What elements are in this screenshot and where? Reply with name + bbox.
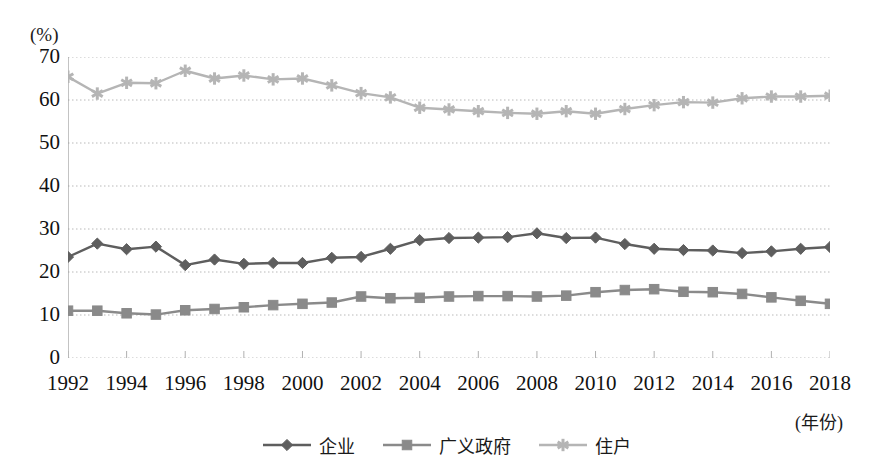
data-point-marker bbox=[825, 299, 830, 309]
data-point-marker bbox=[824, 241, 830, 252]
data-point-marker bbox=[620, 285, 630, 295]
data-point-marker bbox=[473, 232, 484, 243]
data-point-marker bbox=[326, 252, 337, 263]
data-point-marker bbox=[502, 232, 513, 243]
data-series bbox=[68, 65, 830, 120]
data-point-marker bbox=[150, 241, 161, 252]
data-point-marker bbox=[619, 238, 630, 249]
y-axis-tick-label: 10 bbox=[20, 304, 60, 325]
data-point-marker bbox=[92, 238, 103, 249]
legend-item[interactable]: 企业 bbox=[261, 432, 355, 458]
data-point-marker bbox=[298, 299, 308, 309]
data-point-marker bbox=[649, 243, 660, 254]
data-point-marker bbox=[68, 251, 74, 262]
y-axis-tick-label: 20 bbox=[20, 261, 60, 282]
data-point-marker bbox=[209, 254, 220, 265]
data-point-marker bbox=[281, 439, 292, 450]
data-series bbox=[68, 228, 830, 271]
data-series bbox=[68, 284, 830, 319]
data-point-marker bbox=[679, 287, 689, 297]
data-point-marker bbox=[737, 289, 747, 299]
data-point-marker bbox=[68, 71, 73, 83]
legend-swatch-asterisk-icon bbox=[537, 437, 589, 453]
chart-legend: 企业广义政府住户 bbox=[0, 432, 891, 458]
x-axis-tick-labels: 1992199419961998200020022004200620082010… bbox=[0, 372, 891, 406]
data-point-marker bbox=[268, 257, 279, 268]
data-point-marker bbox=[678, 244, 689, 255]
data-point-marker bbox=[238, 258, 249, 269]
data-point-marker bbox=[210, 304, 220, 314]
data-point-marker bbox=[92, 87, 103, 99]
legend-item[interactable]: 广义政府 bbox=[381, 432, 511, 458]
data-point-marker bbox=[561, 232, 572, 243]
data-point-marker bbox=[591, 287, 601, 297]
y-axis-tick-label: 70 bbox=[20, 46, 60, 67]
legend-swatch-square-icon bbox=[381, 437, 433, 453]
x-axis-title: (年份) bbox=[795, 408, 843, 434]
data-point-marker bbox=[151, 310, 161, 320]
data-point-marker bbox=[443, 232, 454, 243]
data-point-marker bbox=[736, 247, 747, 258]
data-point-marker bbox=[444, 292, 454, 302]
data-point-marker bbox=[708, 287, 718, 297]
data-point-marker bbox=[355, 251, 366, 262]
data-point-marker bbox=[180, 260, 191, 271]
data-point-marker bbox=[297, 257, 308, 268]
data-point-marker bbox=[121, 244, 132, 255]
data-point-marker bbox=[474, 291, 484, 301]
data-point-marker bbox=[415, 293, 425, 303]
data-point-marker bbox=[268, 300, 278, 310]
legend-swatch-diamond-icon bbox=[261, 437, 313, 453]
plot-area bbox=[68, 57, 830, 358]
data-point-marker bbox=[767, 293, 777, 303]
data-point-marker bbox=[386, 293, 396, 303]
y-axis-tick-label: 60 bbox=[20, 89, 60, 110]
y-axis-tick-label: 40 bbox=[20, 175, 60, 196]
data-point-marker bbox=[707, 245, 718, 256]
y-axis-tick-label: 0 bbox=[20, 347, 60, 368]
legend-item[interactable]: 住户 bbox=[537, 432, 631, 458]
data-point-marker bbox=[68, 306, 73, 316]
y-axis-tick-label: 30 bbox=[20, 218, 60, 239]
data-point-marker bbox=[590, 232, 601, 243]
series-svg bbox=[68, 57, 830, 358]
data-point-marker bbox=[93, 306, 103, 316]
data-point-marker bbox=[356, 292, 366, 302]
data-point-marker bbox=[795, 243, 806, 254]
y-axis-tick-label: 50 bbox=[20, 132, 60, 153]
data-point-marker bbox=[561, 291, 571, 301]
data-point-marker bbox=[122, 309, 132, 319]
data-point-marker bbox=[532, 292, 542, 302]
legend-label: 住户 bbox=[595, 432, 631, 458]
chart-container: (%) 706050403020100 19921994199619982000… bbox=[0, 0, 891, 470]
data-point-marker bbox=[327, 298, 337, 308]
data-point-marker bbox=[385, 243, 396, 254]
data-point-marker bbox=[649, 284, 659, 294]
data-point-marker bbox=[796, 296, 806, 306]
x-axis-tick-label: 2018 bbox=[795, 372, 865, 395]
data-point-marker bbox=[503, 291, 512, 301]
data-point-marker bbox=[180, 306, 190, 316]
data-point-marker bbox=[402, 440, 412, 450]
data-point-marker bbox=[239, 303, 249, 313]
data-point-marker bbox=[414, 235, 425, 246]
legend-label: 广义政府 bbox=[439, 432, 511, 458]
legend-label: 企业 bbox=[319, 432, 355, 458]
data-point-marker bbox=[766, 246, 777, 257]
